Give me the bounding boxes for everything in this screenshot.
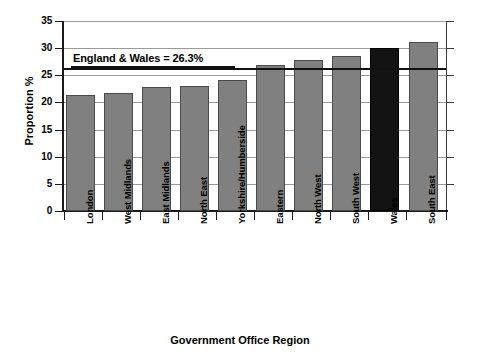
x-category-label-east-midlands: East Midlands bbox=[160, 161, 171, 224]
y-axis-title: Proportion % bbox=[23, 51, 35, 171]
y-tick-label-5: 5 bbox=[12, 179, 52, 189]
x-tick-1 bbox=[102, 211, 103, 220]
x-category-label-yorkshire-humberside: Yorkshire/Humberside bbox=[236, 125, 247, 224]
x-category-label-south-west: South West bbox=[350, 173, 361, 224]
y-tick-5 bbox=[55, 184, 62, 185]
x-tick-5 bbox=[254, 211, 255, 220]
x-tick-2 bbox=[140, 211, 141, 220]
x-category-label-south-east: South East bbox=[426, 175, 437, 224]
bar-chart: 35 30 25 20 15 10 5 0 Proportion % Engla… bbox=[0, 0, 480, 356]
x-tick-0 bbox=[64, 211, 65, 220]
england-wales-reference-line bbox=[64, 68, 446, 70]
y-tick-right-15 bbox=[447, 130, 454, 131]
y-tick-right-10 bbox=[447, 157, 454, 158]
x-tick-9 bbox=[406, 211, 407, 220]
x-tick-8 bbox=[368, 211, 369, 220]
y-tick-right-35 bbox=[447, 21, 454, 22]
y-tick-10 bbox=[55, 157, 62, 158]
y-tick-right-30 bbox=[447, 48, 454, 49]
bar-wales bbox=[370, 48, 399, 211]
x-category-label-west-midlands: West Midlands bbox=[122, 159, 133, 224]
x-tick-3 bbox=[178, 211, 179, 220]
x-tick-10 bbox=[446, 211, 447, 220]
x-category-label-north-east: North East bbox=[198, 177, 209, 224]
england-wales-label-underline bbox=[71, 66, 235, 68]
x-tick-7 bbox=[330, 211, 331, 220]
y-tick-15 bbox=[55, 130, 62, 131]
y-tick-right-20 bbox=[447, 102, 454, 103]
y-tick-35 bbox=[55, 21, 62, 22]
y-tick-right-5 bbox=[447, 184, 454, 185]
x-category-label-wales: Wales bbox=[388, 197, 399, 224]
x-tick-6 bbox=[292, 211, 293, 220]
y-tick-label-0: 0 bbox=[12, 206, 52, 216]
x-tick-4 bbox=[216, 211, 217, 220]
y-tick-0 bbox=[55, 211, 62, 212]
x-category-label-north-west: North West bbox=[312, 175, 323, 225]
y-tick-30 bbox=[55, 48, 62, 49]
y-tick-25 bbox=[55, 75, 62, 76]
england-wales-reference-label: England & Wales = 26.3% bbox=[73, 52, 203, 64]
y-tick-label-35: 35 bbox=[12, 16, 52, 26]
x-axis-title: Government Office Region bbox=[0, 334, 480, 346]
x-category-label-london: London bbox=[84, 190, 95, 224]
y-tick-20 bbox=[55, 102, 62, 103]
x-category-label-eastern: Eastern bbox=[274, 190, 285, 224]
y-tick-right-25 bbox=[447, 75, 454, 76]
